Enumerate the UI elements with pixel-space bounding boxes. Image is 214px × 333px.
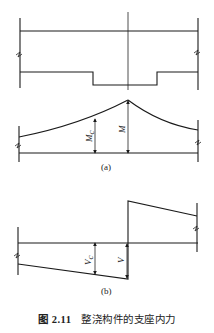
support-internal-force-diagram: Mc M (a) Vc V (b) <box>0 0 214 333</box>
subfigure-b-label: (b) <box>101 286 112 296</box>
figure-number: 图 2.11 <box>38 314 71 325</box>
figure-caption: 图 2.11整浇构件的支座内力 <box>0 311 214 326</box>
figure-title: 整浇构件的支座内力 <box>81 313 176 325</box>
left-break-mark-icon <box>16 52 22 57</box>
v-label: V <box>116 256 126 263</box>
subfigure-a-label: (a) <box>101 162 111 172</box>
shear-force-line <box>18 201 197 279</box>
beam-elevation <box>16 12 200 90</box>
shear-right-break-mark-icon <box>193 226 199 231</box>
moment-right-break-mark-icon <box>195 140 201 145</box>
moment-left-break-mark-icon <box>15 143 21 148</box>
moment-curve-left <box>19 100 128 137</box>
right-break-mark-icon <box>194 50 200 55</box>
moment-curve-right <box>128 100 198 130</box>
shear-diagram: Vc V (b) <box>14 201 199 296</box>
m-label: M <box>117 125 127 134</box>
mc-label: Mc <box>84 131 96 144</box>
vc-label: Vc <box>83 256 95 266</box>
beam-bottom-edge-with-support <box>20 72 198 85</box>
shear-left-break-mark-icon <box>14 253 20 258</box>
moment-diagram: Mc M (a) <box>15 100 201 172</box>
